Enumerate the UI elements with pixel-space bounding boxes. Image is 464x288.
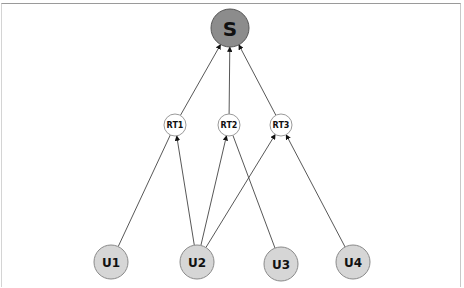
- node-u4: U4: [336, 245, 370, 279]
- node-u3: U3: [264, 247, 298, 281]
- node-label: RT1: [167, 121, 184, 130]
- node-rt3: RT3: [270, 114, 292, 136]
- node-label: U3: [272, 258, 290, 272]
- edge-u2-to-rt2: [201, 136, 227, 246]
- edge-rt1-to-s: [180, 45, 220, 116]
- node-label: U4: [344, 256, 362, 270]
- edge-u2-to-rt1: [177, 136, 195, 245]
- edge-u3-to-rt2: [233, 135, 275, 248]
- node-label: RT2: [221, 121, 238, 130]
- edge-u1-to-rt1: [118, 135, 170, 247]
- node-u1: U1: [94, 245, 128, 279]
- network-diagram: SRT1RT2RT3U1U2U3U4: [0, 0, 464, 288]
- node-label: U2: [188, 256, 206, 270]
- node-label: U1: [102, 256, 120, 270]
- node-rt1: RT1: [164, 114, 186, 136]
- node-u2: U2: [180, 245, 214, 279]
- node-label: S: [223, 17, 237, 41]
- edges-layer: [118, 45, 345, 249]
- edge-rt2-to-s: [229, 47, 230, 114]
- node-s: S: [211, 9, 249, 47]
- edge-u2-to-rt3: [206, 134, 275, 247]
- node-label: RT3: [273, 121, 290, 130]
- nodes-layer: SRT1RT2RT3U1U2U3U4: [94, 9, 370, 281]
- edge-rt3-to-s: [239, 45, 276, 116]
- node-rt2: RT2: [218, 114, 240, 136]
- edge-u4-to-rt3: [286, 135, 345, 247]
